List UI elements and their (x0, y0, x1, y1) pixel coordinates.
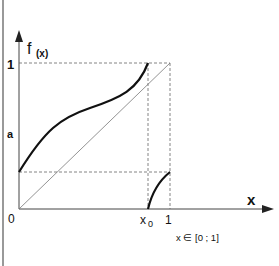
y-axis-subscript: (x) (36, 48, 48, 59)
function-curve-left (19, 63, 148, 172)
tick-y-a: a (7, 128, 14, 140)
tick-x0-subscript: 0 (148, 219, 153, 229)
y-axis-label: f (27, 40, 32, 57)
x-axis-label: x (247, 191, 256, 208)
tick-x-one: 1 (165, 213, 172, 227)
tick-x0: x (140, 213, 146, 227)
tick-y-one: 1 (7, 57, 14, 72)
function-curve-right (148, 172, 170, 209)
x-axis-arrow-icon (262, 205, 274, 213)
origin-label: 0 (8, 212, 15, 226)
y-axis-arrow-icon (15, 30, 23, 42)
identity-line (19, 63, 170, 209)
domain-note: x ∈ [0 ; 1] (176, 232, 219, 243)
function-diagram: f (x) 1 a 0 x 0 1 x x ∈ [0 ; 1] (0, 0, 279, 266)
